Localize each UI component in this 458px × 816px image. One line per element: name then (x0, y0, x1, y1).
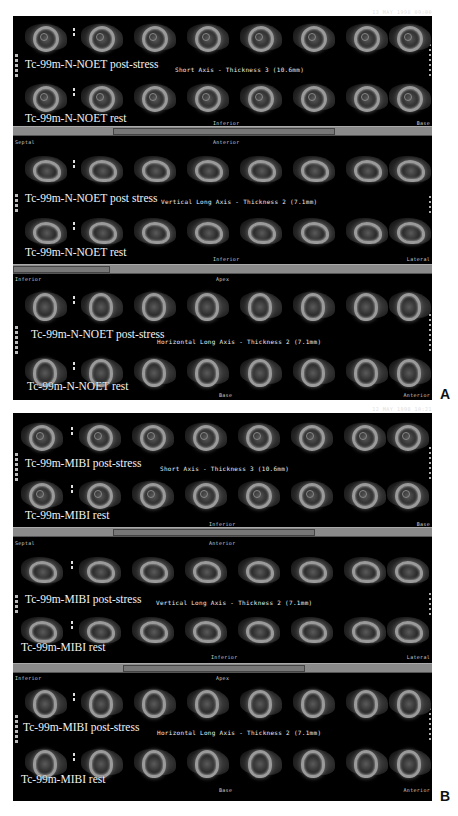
orientation-bottom-center: Inferior (211, 654, 237, 660)
orientation-marks (15, 54, 18, 79)
stress-slice-row (13, 553, 432, 587)
orientation-bottom-right: Anterior (404, 392, 430, 398)
orientation-bottom-right: Lateral (407, 256, 430, 262)
orientation-bottom-center: Base (219, 392, 232, 398)
orientation-marks (15, 194, 18, 214)
orientation-top-center: Anterior (213, 139, 239, 145)
horizontal-scrollbar[interactable] (13, 663, 432, 673)
axis-title: Short Axis - Thickness 3 (10.6mm) (175, 66, 304, 73)
orientation-top-left: Septal (15, 139, 35, 145)
orientation-bottom-right: Lateral (407, 654, 430, 660)
date-stamp: 12 MAY 1998 10:21 (372, 406, 432, 412)
orientation-bottom-right: Anterior (404, 787, 430, 793)
scrollbar-thumb[interactable] (13, 266, 110, 273)
axis-title: Horizontal Long Axis - Thickness 2 (7.1m… (157, 338, 321, 345)
horizontal-long-axis-section: Inferior Apex Tc-99m-N-NOET post-stress … (13, 274, 432, 400)
horizontal-scrollbar[interactable] (13, 527, 432, 537)
horizontal-scrollbar[interactable] (13, 126, 432, 136)
panel-label-a: A (440, 386, 450, 402)
rest-row-label: Tc-99m-MIBI rest (21, 641, 105, 653)
stress-row-label: Tc-99m-MIBI post-stress (25, 457, 141, 469)
orientation-bottom-center: Base (219, 787, 232, 793)
rest-slice-row (13, 80, 432, 114)
axis-title: Vertical Long Axis - Thickness 2 (7.1mm) (161, 198, 318, 205)
stress-row-label: Tc-99m-MIBI post-stress (25, 593, 141, 605)
orientation-marks (15, 715, 18, 745)
rest-row-label: Tc-99m-N-NOET rest (25, 246, 127, 258)
stress-row-label: Tc-99m-N-NOET post-stress (31, 328, 164, 340)
orientation-top-center: Apex (216, 675, 229, 681)
panel-a: 13 MAY 1998 09:00 Tc-99m-N-NOET post-str… (13, 16, 432, 400)
stress-slice-row (13, 20, 432, 54)
stress-slice-row (13, 152, 432, 186)
orientation-marks (15, 326, 18, 356)
stress-row-label: Tc-99m-N-NOET post stress (25, 192, 158, 204)
stress-slice-row (13, 288, 432, 322)
stress-slice-row (13, 419, 432, 453)
orientation-marks (15, 595, 18, 615)
short-axis-section: Tc-99m-MIBI post-stress Short Axis - Thi… (13, 413, 432, 527)
rest-row-label: Tc-99m-MIBI rest (25, 509, 109, 521)
scrollbar-thumb[interactable] (113, 128, 335, 135)
panel-b: 12 MAY 1998 10:21 Tc-99m-MIBI post-stres… (13, 413, 432, 801)
axis-title: Horizontal Long Axis - Thickness 2 (7.1m… (157, 729, 321, 736)
rest-row-label: Tc-99m-N-NOET rest (25, 112, 127, 124)
orientation-top-left: Inferior (15, 675, 41, 681)
orientation-bottom-center: Inferior (213, 256, 239, 262)
vertical-long-axis-section: Septal Anterior Tc-99m-MIBI post-stress … (13, 537, 432, 663)
stress-row-label: Tc-99m-N-NOET post-stress (25, 58, 158, 70)
rest-slice-row (13, 214, 432, 248)
vertical-long-axis-section: Septal Anterior Tc-99m-N-NOET post stres… (13, 136, 432, 264)
axis-title: Short Axis - Thickness 3 (10.6mm) (160, 465, 289, 472)
stress-row-label: Tc-99m-MIBI post-stress (23, 721, 139, 733)
short-axis-section: Tc-99m-N-NOET post-stress Short Axis - T… (13, 16, 432, 126)
horizontal-long-axis-section: Inferior Apex Tc-99m-MIBI post-stress Ho… (13, 673, 432, 795)
date-stamp: 13 MAY 1998 09:00 (372, 9, 432, 15)
rest-slice-row (13, 477, 432, 511)
axis-title: Vertical Long Axis - Thickness 2 (7.1mm) (156, 599, 313, 606)
horizontal-scrollbar[interactable] (13, 264, 432, 274)
stress-slice-row (13, 685, 432, 719)
orientation-top-left: Inferior (15, 276, 41, 282)
rest-row-label: Tc-99m-N-NOET rest (27, 380, 129, 392)
color-scale-marks (429, 196, 431, 216)
scrollbar-thumb[interactable] (123, 665, 305, 672)
orientation-top-center: Apex (216, 276, 229, 282)
panel-label-b: B (440, 788, 450, 804)
orientation-top-left: Septal (15, 540, 35, 546)
scrollbar-thumb[interactable] (113, 529, 315, 536)
rest-row-label: Tc-99m-MIBI rest (21, 773, 105, 785)
orientation-top-center: Anterior (209, 540, 235, 546)
